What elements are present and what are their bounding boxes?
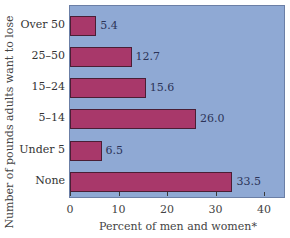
bar <box>70 78 146 98</box>
x-tick-label: 0 <box>67 203 74 216</box>
bar <box>70 172 232 192</box>
bar <box>70 109 196 129</box>
x-tick <box>119 192 120 196</box>
category-label: None <box>35 171 65 191</box>
y-axis-label: Number of pounds adults want to lose <box>3 15 16 228</box>
x-tick <box>167 192 168 196</box>
x-tick-label: 20 <box>160 203 174 216</box>
category-label: Over 50 <box>21 15 66 35</box>
bar <box>70 141 102 161</box>
category-label: Under 5 <box>19 140 65 160</box>
value-label: 5.4 <box>100 16 118 36</box>
plot-area: 5.412.715.626.06.533.5 <box>69 5 285 198</box>
value-label: 26.0 <box>200 109 225 129</box>
x-tick <box>70 192 71 196</box>
bar <box>70 47 132 67</box>
category-label: 25–50 <box>32 46 66 66</box>
x-tick-label: 10 <box>112 203 126 216</box>
value-label: 12.7 <box>136 47 161 67</box>
x-axis-label: Percent of men and women* <box>70 220 286 233</box>
x-tick <box>216 192 217 196</box>
category-label: 15–24 <box>32 77 66 97</box>
value-label: 33.5 <box>236 172 261 192</box>
category-label: 5–14 <box>39 108 66 128</box>
x-tick-label: 30 <box>209 203 223 216</box>
x-tick <box>264 192 265 196</box>
bar <box>70 16 96 36</box>
x-tick-label: 40 <box>257 203 271 216</box>
value-label: 6.5 <box>106 141 124 161</box>
value-label: 15.6 <box>150 78 175 98</box>
